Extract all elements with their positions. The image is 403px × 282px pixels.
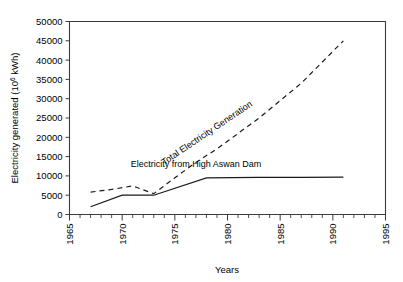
y-axis-title: Electricity generated (106 kWh)	[9, 53, 20, 184]
y-tick-label: 50000	[36, 16, 62, 27]
x-axis-tick-labels: 1965197019751980198519901995	[64, 224, 391, 245]
y-tick-label: 30000	[36, 93, 62, 104]
chart-container: 0500010000150002000025000300003500040000…	[0, 0, 403, 282]
y-axis-title-text: Electricity generated (10	[9, 81, 20, 183]
y-tick-label: 20000	[36, 132, 62, 143]
y-axis-ticks	[66, 22, 70, 215]
x-axis-title: Years	[215, 264, 239, 275]
y-tick-label: 5000	[41, 190, 62, 201]
y-tick-label: 10000	[36, 170, 62, 181]
y-tick-label: 25000	[36, 112, 62, 123]
x-tick-label: 1995	[380, 224, 391, 245]
annotation-label-1: Electricity from High Aswan Dam	[131, 159, 262, 169]
x-tick-label: 1985	[275, 224, 286, 245]
line-chart: 0500010000150002000025000300003500040000…	[0, 0, 403, 282]
x-tick-label: 1970	[117, 224, 128, 245]
x-tick-label: 1975	[169, 224, 180, 245]
x-axis-ticks	[70, 215, 386, 221]
y-axis-title-tail: kWh)	[9, 53, 20, 78]
y-tick-label: 0	[57, 209, 62, 220]
y-tick-label: 40000	[36, 55, 62, 66]
x-axis-title-text: Years	[215, 264, 239, 275]
x-tick-label: 1980	[222, 224, 233, 245]
annotation-label-0: Total Electricity Generation	[160, 99, 254, 167]
series-line-total	[91, 41, 344, 194]
y-tick-label: 15000	[36, 151, 62, 162]
y-tick-label: 45000	[36, 35, 62, 46]
svg-text:Electricity generated (106 kWh: Electricity generated (106 kWh)	[9, 53, 20, 184]
x-tick-label: 1965	[64, 224, 75, 245]
y-axis-tick-labels: 0500010000150002000025000300003500040000…	[36, 16, 62, 220]
series-annotations: Total Electricity GenerationElectricity …	[131, 99, 262, 169]
y-tick-label: 35000	[36, 74, 62, 85]
x-tick-label: 1990	[327, 224, 338, 245]
series-line-aswan	[91, 177, 344, 207]
